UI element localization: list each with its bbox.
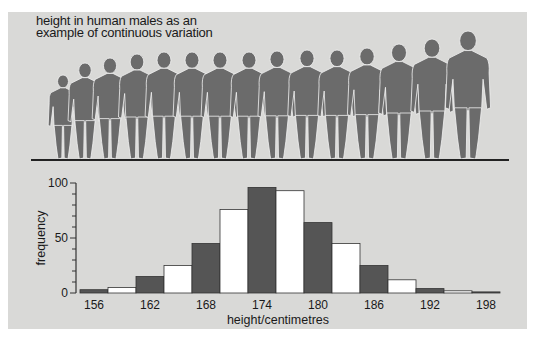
x-axis: 156162168174180186192198 (84, 298, 496, 312)
histogram-bar (472, 292, 500, 293)
x-tick-label: 192 (420, 298, 440, 312)
x-tick-label: 168 (196, 298, 216, 312)
histogram-bar (332, 244, 360, 294)
histogram: 050100 156162168174180186192198 frequenc… (34, 176, 500, 327)
histogram-bar (276, 191, 304, 293)
histogram-bar (220, 209, 248, 293)
y-tick-label: 0 (61, 286, 68, 300)
figure-graphics: 050100 156162168174180186192198 frequenc… (0, 0, 537, 342)
histogram-bar (388, 280, 416, 293)
histogram-bar (444, 291, 472, 293)
x-tick-label: 198 (476, 298, 496, 312)
y-tick-label: 100 (48, 176, 68, 190)
histogram-bar (248, 187, 276, 293)
x-axis-title: height/centimetres (227, 313, 329, 327)
silhouette-row (48, 31, 490, 159)
histogram-bar (136, 277, 164, 294)
x-tick-label: 156 (84, 298, 104, 312)
x-tick-label: 162 (140, 298, 160, 312)
y-axis: 050100 (48, 176, 76, 300)
histogram-bar (416, 289, 444, 293)
histogram-bar (304, 223, 332, 293)
x-tick-label: 180 (308, 298, 328, 312)
histogram-bar (80, 290, 108, 293)
x-tick-label: 186 (364, 298, 384, 312)
histogram-bar (360, 266, 388, 294)
y-tick-label: 50 (55, 231, 69, 245)
histogram-bars (80, 187, 500, 293)
x-tick-label: 174 (252, 298, 272, 312)
histogram-bar (108, 288, 136, 294)
histogram-bar (164, 266, 192, 294)
y-axis-title: frequency (34, 210, 48, 266)
histogram-bar (192, 244, 220, 294)
